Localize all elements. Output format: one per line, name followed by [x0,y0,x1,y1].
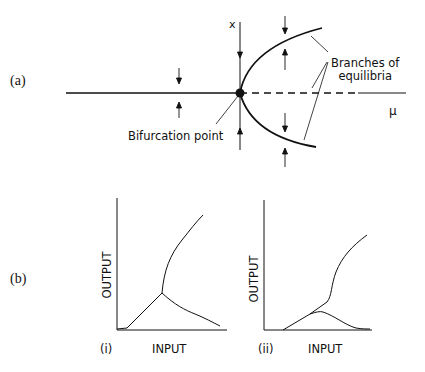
leader-line-bifurcation [216,96,238,124]
bifurcation-point-marker [236,89,245,98]
subplot-ii-xlabel: INPUT [308,342,342,356]
leader-line-upper [311,36,328,52]
subplot-ii-lower-branch [310,312,370,329]
upper-equilibrium-branch [240,28,322,93]
arrow-up-icon [283,49,288,55]
panel-a-label: (a) [10,73,26,89]
flow-arrows [177,16,288,167]
subplot-ii-ylabel: OUTPUT [247,244,261,314]
leader-line-dashed [312,62,327,88]
subplot-i-xlabel: INPUT [152,342,186,356]
branches-annotation-line2: equilibria [331,70,399,83]
arrow-down-icon [238,52,243,58]
subplot-i-lower-branch [162,293,220,326]
subplot-i-upper-branch [162,215,203,293]
arrow-down-icon [283,126,288,132]
subplot-i-index: (i) [100,342,112,356]
arrow-down-icon [283,28,288,34]
subplot-i-rising-branch [117,293,162,329]
arrow-up-icon [283,148,288,154]
leader-line-lower [304,62,328,140]
subplot-ii-upper-branch [327,235,367,302]
bifurcation-annotation: Bifurcation point [128,129,223,143]
subplot-i-ylabel: OUTPUT [100,240,114,310]
panel-a [66,22,406,150]
subplot-ii-index: (ii) [258,342,273,356]
subplot-i-axes [117,198,227,330]
x-axis-label: x [229,18,236,31]
subplot-ii-rising-branch [283,302,327,330]
arrow-up-icon [177,102,182,108]
subplot-ii-axes [264,200,372,330]
branches-annotation: Branches of equilibria [331,57,399,83]
arrow-down-icon [177,78,182,84]
arrow-up-icon [238,128,243,134]
mu-axis-label: μ [389,104,397,118]
subplot-ii [264,200,372,330]
subplot-i [117,198,227,330]
panel-b-label: (b) [10,271,26,287]
